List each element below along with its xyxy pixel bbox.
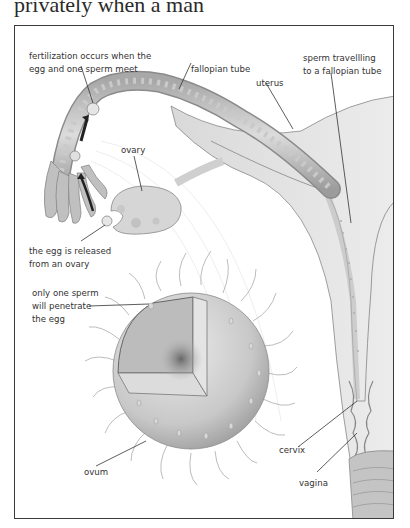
label-vagina: vagina	[299, 477, 328, 490]
label-cervix: cervix	[279, 444, 305, 457]
reproductive-system-illustration	[15, 26, 394, 519]
label-sperm-travelling-line2: to a fallopian tube	[303, 65, 382, 78]
label-sperm-travelling-line1: sperm travellling	[303, 52, 382, 65]
label-fertilization: fertilization occurs when the egg and on…	[29, 50, 151, 76]
label-fallopian-tube: fallopian tube	[191, 63, 250, 76]
label-one-sperm: only one sperm will penetrate the egg	[32, 287, 99, 326]
diagram-frame: fertilization occurs when the egg and on…	[14, 25, 394, 519]
ovary-shape	[102, 186, 181, 234]
top-body-text: privately when a man	[14, 0, 204, 18]
label-one-sperm-line1: only one sperm	[32, 287, 99, 300]
label-fertilization-line2: egg and one sperm meet	[29, 63, 151, 76]
label-uterus: uterus	[256, 77, 284, 90]
label-fertilization-line1: fertilization occurs when the	[29, 50, 151, 63]
label-sperm-travelling: sperm travellling to a fallopian tube	[303, 52, 382, 78]
ovarian-ligament	[176, 161, 223, 183]
ovum-shape	[113, 293, 269, 449]
label-one-sperm-line2: will penetrate	[32, 300, 99, 313]
label-egg-released-line1: the egg is released	[29, 245, 111, 258]
label-ovary: ovary	[121, 144, 145, 157]
label-ovum: ovum	[84, 466, 108, 479]
label-egg-released: the egg is released from an ovary	[29, 245, 111, 271]
label-egg-released-line2: from an ovary	[29, 258, 111, 271]
label-one-sperm-line3: the egg	[32, 313, 99, 326]
